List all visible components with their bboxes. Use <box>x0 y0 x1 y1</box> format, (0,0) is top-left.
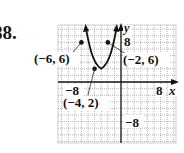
parabola-curve <box>0 0 101 92</box>
point-label-neg2-6: (−2, 6) <box>123 52 159 67</box>
x-tick-8: 8 <box>156 83 163 98</box>
y-tick-8: 8 <box>124 34 131 49</box>
x-axis-label: x <box>168 83 176 98</box>
leader-line-p1 <box>73 42 81 52</box>
graph: (−6, 6) (−2, 6) (−4, 2) −8 8 x y 8 −8 <box>0 0 184 153</box>
y-axis-label: y <box>122 21 130 35</box>
y-tick-neg8: −8 <box>125 115 139 130</box>
x-tick-neg8: −8 <box>65 83 79 98</box>
point-label-neg6-6: (−6, 6) <box>34 51 70 66</box>
